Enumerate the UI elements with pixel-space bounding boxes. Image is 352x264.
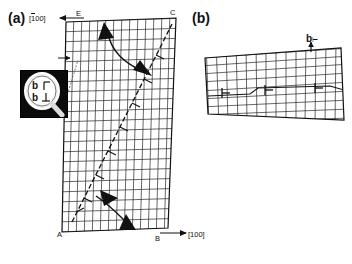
- figure-root: (a) [100] E C A B [100] b=1/2⟨0⟩ b=1/2⟨0…: [0, 0, 352, 264]
- burgers-vector-label-b: b⊢: [306, 28, 318, 46]
- panel-a-drawing: [0, 0, 352, 264]
- inset-label-b-2: b: [32, 92, 38, 103]
- magnifier-inset: b b: [20, 70, 68, 118]
- panel-a-lattice-grid: [55, 10, 190, 245]
- dislocation-symbol-glyph: ⊢: [312, 36, 318, 43]
- magnifier-handle: [52, 104, 62, 115]
- panel-b-label: (b): [192, 10, 210, 26]
- magnifier-drawing: b b: [21, 71, 67, 117]
- inset-label-b-1: b: [32, 80, 38, 91]
